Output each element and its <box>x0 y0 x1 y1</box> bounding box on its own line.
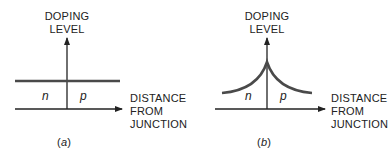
caption-b: (b) <box>257 136 271 149</box>
region-p-b: p <box>280 90 287 103</box>
region-n-b: n <box>245 90 252 103</box>
x-label-line: JUNCTION <box>331 118 388 131</box>
x-label-line: JUNCTION <box>130 118 187 131</box>
x-axis-label-b: DISTANCE FROM JUNCTION <box>331 92 388 131</box>
y-label-line: DOPING <box>44 10 90 23</box>
y-axis-label-a: DOPING LEVEL <box>44 10 90 36</box>
y-label-line: DOPING <box>244 10 290 23</box>
y-label-line: LEVEL <box>44 23 90 36</box>
diagram-b <box>215 38 325 109</box>
caption-paren: ) <box>267 136 271 148</box>
x-label-line: FROM <box>130 105 187 118</box>
x-label-line: FROM <box>331 105 388 118</box>
caption-paren: ) <box>67 136 71 148</box>
y-label-line: LEVEL <box>244 23 290 36</box>
y-axis-label-b: DOPING LEVEL <box>244 10 290 36</box>
x-label-line: DISTANCE <box>130 92 187 105</box>
diagram-a <box>15 38 122 109</box>
region-n-a: n <box>42 90 49 103</box>
x-label-line: DISTANCE <box>331 92 388 105</box>
region-p-a: p <box>80 90 87 103</box>
caption-a: (a) <box>57 136 71 149</box>
x-axis-label-a: DISTANCE FROM JUNCTION <box>130 92 187 131</box>
